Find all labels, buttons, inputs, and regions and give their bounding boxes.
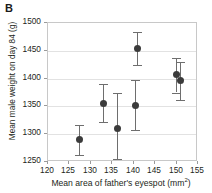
x-axis-title-text: Mean area of father's eyespot (mm [51, 178, 184, 188]
y-tick-mark [44, 50, 47, 51]
error-bar-cap [131, 80, 140, 81]
y-tick-label: 1300 [11, 128, 41, 137]
plot-area [47, 22, 197, 161]
x-axis-title: Mean area of father's eyespot (mm2) [30, 177, 212, 188]
x-tick-mark [90, 161, 91, 164]
y-tick-mark [44, 105, 47, 106]
gridline-y [48, 134, 196, 135]
data-point [76, 136, 83, 143]
y-tick-mark [44, 78, 47, 79]
y-tick-label: 1400 [11, 73, 41, 82]
x-tick-mark [154, 161, 155, 164]
error-bar-cap [99, 122, 108, 123]
x-tick-label: 155 [184, 166, 210, 175]
error-bar-cap [113, 93, 122, 94]
data-point [132, 102, 139, 109]
error-bar-cap [99, 84, 108, 85]
y-tick-label: 1250 [11, 156, 41, 165]
figure-panel-b: B Mean male weight on day 84 (g) Mean ar… [0, 0, 212, 193]
x-tick-mark [47, 161, 48, 164]
data-point [134, 45, 141, 52]
y-tick-label: 1450 [11, 45, 41, 54]
y-tick-label: 1350 [11, 100, 41, 109]
x-tick-mark [133, 161, 134, 164]
error-bar-cap [75, 125, 84, 126]
x-axis-title-paren: ) [188, 178, 191, 188]
y-tick-mark [44, 133, 47, 134]
y-tick-label: 1500 [11, 17, 41, 26]
data-point [114, 125, 121, 132]
gridline-y [48, 79, 196, 80]
x-tick-mark [68, 161, 69, 164]
gridline-y [48, 106, 196, 107]
error-bar-cap [133, 65, 142, 66]
error-bar-cap [113, 159, 122, 160]
x-tick-mark [176, 161, 177, 164]
error-bar-cap [176, 100, 185, 101]
y-tick-mark [44, 22, 47, 23]
x-tick-mark [197, 161, 198, 164]
error-bar-cap [131, 130, 140, 131]
x-tick-mark [111, 161, 112, 164]
error-bar-cap [75, 155, 84, 156]
error-bar-cap [172, 58, 181, 59]
data-point [177, 77, 184, 84]
error-bar-cap [176, 62, 185, 63]
error-bar-cap [133, 32, 142, 33]
gridline-y [48, 51, 196, 52]
